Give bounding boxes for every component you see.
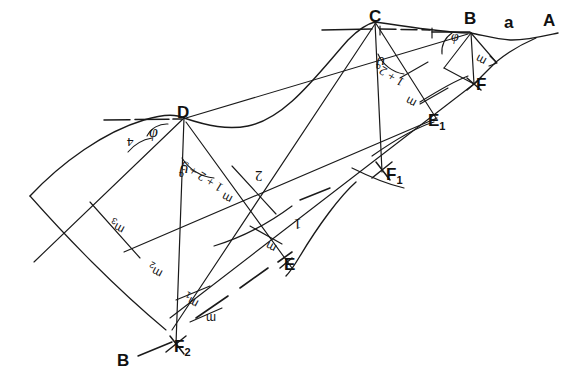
point-label-A: A xyxy=(543,12,555,29)
ground-surface-left xyxy=(30,115,184,196)
diagonal-B-to-lower-left xyxy=(160,34,470,300)
slice-label-2: 2 xyxy=(255,168,263,183)
failure-arc-segment-B xyxy=(420,76,468,102)
wedge-F-to-E1 xyxy=(444,68,474,84)
rupture-line-D-to-lower-right xyxy=(184,118,432,124)
vertical-line-B-F xyxy=(471,33,474,84)
wedge-edge-D-downleft-1 xyxy=(34,118,184,262)
point-label-F2-sub: 2 xyxy=(184,346,190,358)
slice-divider-a xyxy=(62,228,112,284)
slice-label-1: 1 xyxy=(294,216,302,231)
point-label-F: F xyxy=(476,76,486,93)
arrowhead-at-E1-right xyxy=(489,56,497,66)
datum-line-at-D xyxy=(104,119,182,120)
point-label-F1: F1 xyxy=(386,166,403,186)
point-label-B-bottom: B xyxy=(117,352,129,369)
point-label-E1-letter: E xyxy=(428,111,439,130)
diagram-canvas: A a B C D E E1 F F1 F2 B φ ϑ ϑ φ 4 1 + 2… xyxy=(0,0,572,388)
angle-label-phi-at-B: φ xyxy=(451,30,459,44)
point-label-E: E xyxy=(284,256,295,273)
datum-line-at-C-left xyxy=(322,29,372,30)
point-label-F1-sub: 1 xyxy=(396,174,402,186)
broken-line-curve xyxy=(214,206,292,246)
point-label-E1-sub: 1 xyxy=(439,120,445,132)
backscarp-curve-left xyxy=(30,196,166,330)
point-label-a: a xyxy=(504,14,513,31)
angle-label-four-at-D: 4 xyxy=(127,136,134,149)
point-label-F2: F2 xyxy=(174,338,191,358)
datum-line-at-C-right xyxy=(380,29,430,30)
shear-line-upper xyxy=(186,34,468,118)
point-label-E1: E1 xyxy=(428,112,445,132)
point-label-D: D xyxy=(177,104,189,121)
point-label-F2-letter: F xyxy=(174,337,184,356)
point-label-C: C xyxy=(369,8,381,25)
wedge-arrow-B-right xyxy=(496,38,536,62)
measure-label-m-at-F2: m xyxy=(206,312,216,324)
broken-line-seg-2 xyxy=(240,268,268,288)
leader-B-bottom xyxy=(138,342,172,356)
point-label-F1-letter: F xyxy=(386,165,396,184)
angle-label-phi-at-D: φ xyxy=(149,124,158,140)
wedge-E1-crossbar-2 xyxy=(420,88,448,104)
ground-surface-B-to-A xyxy=(471,33,558,40)
ground-surface-D-to-C xyxy=(184,22,375,128)
point-label-B-top: B xyxy=(464,10,476,27)
